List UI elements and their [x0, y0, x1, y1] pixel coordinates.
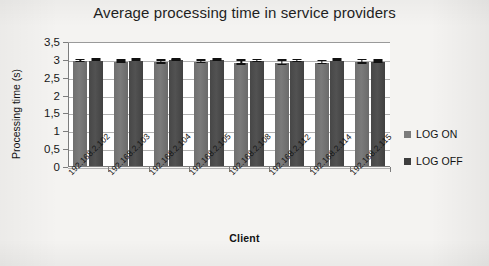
error-bar-cap — [76, 61, 85, 63]
error-bar-cap — [358, 59, 367, 61]
error-bar-cap — [317, 60, 326, 62]
x-tick-mark — [390, 167, 391, 172]
error-bar-cap — [293, 61, 302, 63]
chart-legend: LOG ONLOG OFF — [404, 128, 463, 167]
y-tick-mark — [63, 78, 68, 79]
y-tick-mark — [63, 113, 68, 114]
error-bar-cap — [156, 62, 165, 64]
bar-slot — [234, 43, 248, 167]
bar-slot — [73, 43, 87, 167]
y-tick-label: 3,5 — [44, 36, 60, 48]
bar-slot — [355, 43, 369, 167]
error-bar-cap — [333, 60, 342, 62]
y-tick-mark — [63, 149, 68, 150]
error-bar-cap — [252, 61, 261, 63]
error-bar-cap — [197, 59, 206, 61]
y-tick-label: 2,5 — [44, 72, 60, 84]
error-bar-cap — [237, 63, 246, 65]
chart-figure: Average processing time in service provi… — [0, 0, 489, 266]
error-bar-cap — [277, 59, 286, 61]
legend-item[interactable]: LOG ON — [404, 128, 463, 140]
bar-slot — [315, 43, 329, 167]
legend-label: LOG OFF — [416, 155, 463, 167]
legend-label: LOG ON — [416, 128, 457, 140]
error-bar-cap — [237, 59, 246, 61]
bar-slot — [154, 43, 168, 167]
bar-slot — [194, 43, 208, 167]
legend-item[interactable]: LOG OFF — [404, 155, 463, 167]
error-bar-cap — [197, 62, 206, 64]
y-tick-label: 0 — [54, 161, 60, 173]
y-tick-label: 0,5 — [44, 143, 60, 155]
error-bar-cap — [156, 59, 165, 61]
error-bar-cap — [116, 61, 125, 63]
y-tick-label: 1 — [54, 125, 60, 137]
error-bar-cap — [212, 59, 221, 61]
error-bar-cap — [172, 59, 181, 61]
error-bar-cap — [317, 63, 326, 65]
y-axis-line — [68, 43, 69, 167]
x-axis-tick-labels: 192.168.2.102192.168.2.103192.168.2.1041… — [68, 170, 390, 218]
error-bar-cap — [277, 64, 286, 66]
error-bar-cap — [132, 60, 141, 62]
y-tick-label: 2 — [54, 90, 60, 102]
y-tick-mark — [63, 60, 68, 61]
error-bar-cap — [358, 62, 367, 64]
y-tick-label: 3 — [54, 54, 60, 66]
y-axis-title: Processing time (s) — [10, 54, 22, 174]
error-bar-cap — [373, 61, 382, 63]
legend-swatch-log-off-icon — [404, 158, 411, 165]
legend-swatch-log-on-icon — [404, 131, 411, 138]
y-tick-mark — [63, 131, 68, 132]
bar-slot — [275, 43, 289, 167]
y-tick-label: 1,5 — [44, 107, 60, 119]
y-tick-mark — [63, 96, 68, 97]
error-bar-cap — [91, 60, 100, 62]
x-axis-title: Client — [0, 232, 489, 244]
bar-slot — [114, 43, 128, 167]
y-tick-mark — [63, 42, 68, 43]
chart-title: Average processing time in service provi… — [0, 4, 489, 21]
